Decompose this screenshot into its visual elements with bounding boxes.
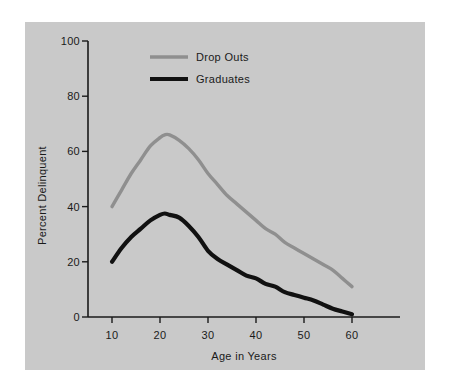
y-tick-label: 0 — [44, 311, 80, 323]
y-axis-tick-marks — [82, 41, 88, 317]
series-line-drop-outs — [112, 134, 352, 286]
y-axis-title: Percent Delinquent — [36, 146, 48, 245]
x-tick-label: 40 — [250, 329, 263, 341]
y-tick-label: 40 — [44, 201, 80, 213]
x-axis-title: Age in Years — [88, 350, 400, 362]
y-tick-label: 100 — [44, 35, 80, 47]
x-tick-label: 10 — [106, 329, 119, 341]
y-tick-label: 60 — [44, 145, 80, 157]
legend-label-graduates: Graduates — [196, 73, 250, 85]
legend-label-drop-outs: Drop Outs — [196, 51, 249, 63]
y-tick-label: 20 — [44, 256, 80, 268]
series-line-graduates — [112, 214, 352, 315]
x-tick-label: 60 — [346, 329, 359, 341]
x-tick-label: 50 — [298, 329, 311, 341]
x-tick-label: 20 — [154, 329, 167, 341]
data-series-group — [112, 134, 352, 314]
y-tick-label: 80 — [44, 90, 80, 102]
x-axis-tick-marks — [112, 317, 352, 323]
chart-figure: 020406080100 102030405060 Drop OutsGradu… — [0, 0, 451, 390]
x-tick-label: 30 — [202, 329, 215, 341]
legend-swatches — [150, 57, 188, 79]
